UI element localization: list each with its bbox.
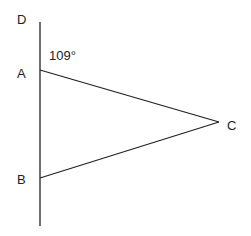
label-A: A (17, 66, 26, 81)
segment-BC (40, 122, 219, 178)
label-D: D (17, 12, 26, 27)
diagram-lines (0, 0, 251, 236)
label-B: B (17, 172, 26, 187)
geometry-diagram: D 109° A C B (0, 0, 251, 236)
segment-AC (40, 70, 219, 122)
label-angle: 109° (49, 48, 76, 63)
label-C: C (227, 118, 236, 133)
